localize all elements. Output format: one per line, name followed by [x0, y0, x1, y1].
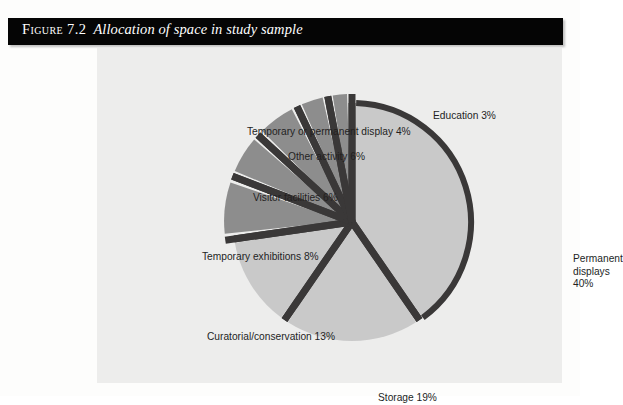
slice-label-other-activity: Other activity 6% [288, 151, 365, 164]
slice-label-education: Education 3% [433, 110, 496, 123]
page-title: Figure 7.2Allocation of space in study s… [22, 21, 303, 38]
figure-title-bar: Figure 7.2Allocation of space in study s… [8, 18, 563, 45]
figure-number: Figure 7.2 [22, 21, 93, 37]
slice-label-temporary-exhibitions: Temporary exhibitions 8% [202, 251, 319, 264]
slice-label-storage: Storage 19% [378, 392, 437, 405]
slice-label-visitor-facilities: Visitor facilities 6% [253, 192, 338, 205]
slice-label-temporary-or-permanent-display: Temporary or permanent display 4% [247, 126, 411, 139]
chart-panel: Education 3% Temporary or permanent disp… [97, 48, 562, 383]
slice-label-curatorial-conservation: Curatorial/conservation 13% [207, 331, 335, 344]
figure-caption: Allocation of space in study sample [93, 21, 302, 37]
slice-label-permanent-displays: Permanent displays 40% [573, 253, 623, 291]
